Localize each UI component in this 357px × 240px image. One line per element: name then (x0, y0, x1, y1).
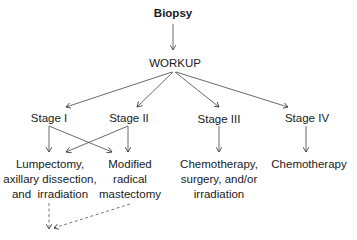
lumpectomy-line-2: axillary dissection, (3, 172, 96, 187)
node-workup: WORKUP (149, 56, 201, 71)
node-stage-2: Stage II (109, 111, 149, 126)
lumpectomy-line-1: Lumpectomy, (3, 157, 96, 172)
edge-workup-stage4 (176, 72, 288, 107)
node-stage-4-treatment: Chemotherapy (271, 157, 346, 172)
edge-mastectomy-dashed (54, 204, 130, 228)
mastectomy-line-2: radical (99, 172, 161, 187)
mastectomy-line-1: Modified (99, 157, 161, 172)
edge-workup-stage1 (66, 72, 172, 107)
node-lumpectomy: Lumpectomy, axillary dissection, and irr… (3, 157, 96, 202)
node-stage-3-treatment: Chemotherapy, surgery, and/or irradiatio… (180, 157, 258, 202)
edge-workup-stage3 (175, 72, 219, 107)
stage3-treatment-line-3: irradiation (180, 187, 258, 202)
lumpectomy-line-3: and irradiation (3, 187, 96, 202)
edge-stage1-mastectomy (49, 126, 112, 152)
node-stage-3: Stage III (198, 112, 241, 127)
node-stage-1: Stage I (31, 111, 67, 126)
node-mastectomy: Modified radical mastectomy (99, 157, 161, 202)
mastectomy-line-3: mastectomy (99, 187, 161, 202)
stage3-treatment-line-2: surgery, and/or (180, 172, 258, 187)
node-biopsy: Biopsy (154, 6, 192, 21)
edge-stage2-lumpectomy (66, 126, 128, 152)
stage3-treatment-line-1: Chemotherapy, (180, 157, 258, 172)
node-stage-4: Stage IV (285, 111, 329, 126)
